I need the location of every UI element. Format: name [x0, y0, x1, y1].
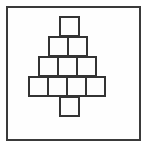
square-block [48, 36, 69, 57]
square-block [38, 56, 59, 77]
square-pyramid-figure [8, 8, 139, 139]
square-block [28, 76, 49, 97]
square-block [67, 36, 88, 57]
image-canvas [0, 0, 148, 148]
square-block [85, 76, 106, 97]
block-row-1 [59, 16, 80, 37]
block-row-2 [48, 36, 88, 57]
square-block [59, 16, 80, 37]
square-block [57, 56, 78, 77]
square-block [76, 56, 97, 77]
block-row-3 [38, 56, 97, 77]
figure-border-frame [6, 6, 141, 141]
block-row-4 [28, 76, 106, 97]
block-row-5 [59, 96, 80, 117]
square-block [47, 76, 68, 97]
square-block [66, 76, 87, 97]
square-block [59, 96, 80, 117]
